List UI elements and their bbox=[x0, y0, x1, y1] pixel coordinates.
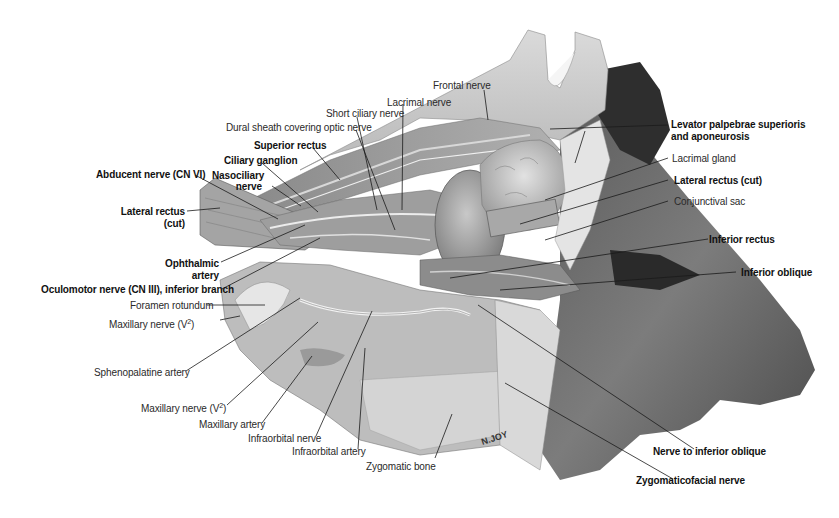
label-superior-rectus: Superior rectus bbox=[254, 140, 326, 151]
label-dural-sheath: Dural sheath covering optic nerve bbox=[226, 122, 372, 133]
label-frontal-nerve: Frontal nerve bbox=[433, 80, 491, 91]
label-maxillary-artery: Maxillary artery bbox=[199, 419, 265, 430]
label-infraorbital-artery: Infraorbital artery bbox=[292, 446, 366, 457]
label-ciliary-ganglion: Ciliary ganglion bbox=[224, 155, 297, 166]
label-lateral-rectus-left-1: Lateral rectus bbox=[100, 206, 185, 217]
label-ophthalmic-artery-2: artery bbox=[160, 270, 219, 281]
label-zygomaticofacial-nerve: Zygomaticofacial nerve bbox=[636, 475, 745, 486]
label-nasociliary-nerve-1: Nasociliary bbox=[212, 170, 262, 181]
label-short-ciliary-nerve: Short ciliary nerve bbox=[326, 108, 404, 119]
label-abducent-nerve: Abducent nerve (CN VI) bbox=[96, 169, 205, 180]
label-lacrimal-nerve: Lacrimal nerve bbox=[387, 97, 451, 108]
label-ophthalmic-artery-1: Ophthalmic bbox=[160, 258, 219, 269]
label-infraorbital-nerve: Infraorbital nerve bbox=[248, 433, 321, 444]
orbit-illustration bbox=[0, 0, 839, 518]
label-lacrimal-gland: Lacrimal gland bbox=[672, 153, 736, 164]
label-lateral-rectus-right: Lateral rectus (cut) bbox=[674, 175, 762, 186]
label-nasociliary-nerve-2: nerve bbox=[212, 181, 262, 192]
label-levator-1: Levator palpebrae superioris bbox=[671, 119, 805, 130]
label-zygomatic-bone: Zygomatic bone bbox=[366, 461, 436, 472]
anatomy-figure: Frontal nerve Lacrimal nerve Short cilia… bbox=[0, 0, 839, 518]
label-nerve-to-inferior-oblique: Nerve to inferior oblique bbox=[653, 446, 766, 457]
label-inferior-oblique: Inferior oblique bbox=[741, 267, 812, 278]
label-maxillary-nerve-bottom: Maxillary nerve (V2) bbox=[141, 400, 226, 414]
label-foramen-rotundum: Foramen rotundum bbox=[130, 300, 213, 311]
label-oculomotor-nerve: Oculomotor nerve (CN III), inferior bran… bbox=[41, 284, 234, 295]
label-conjunctival-sac: Conjunctival sac bbox=[674, 196, 745, 207]
label-lateral-rectus-left-2: (cut) bbox=[100, 218, 185, 229]
label-maxillary-nerve-top: Maxillary nerve (V2) bbox=[109, 316, 194, 330]
label-levator-2: and aponeurosis bbox=[671, 131, 750, 142]
label-sphenopalatine-artery: Sphenopalatine artery bbox=[94, 367, 190, 378]
label-inferior-rectus: Inferior rectus bbox=[709, 234, 775, 245]
